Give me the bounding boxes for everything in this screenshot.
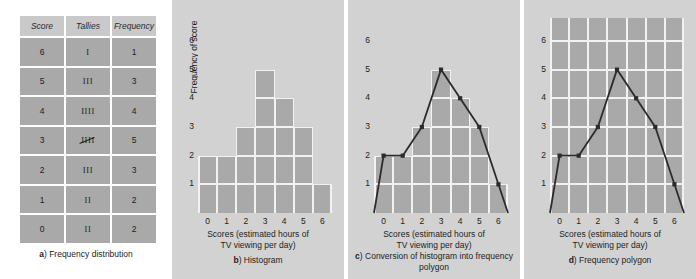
polygon-plot-area xyxy=(550,18,684,213)
y-axis-tick-label: 6 xyxy=(352,35,370,45)
cell-frequency: 1 xyxy=(112,38,156,66)
polygon-data-point-marker xyxy=(496,182,500,186)
x-axis-label: Scores (estimated hours of TV viewing pe… xyxy=(534,229,686,251)
cell-score: 5 xyxy=(20,68,64,96)
y-axis-tick-label: 4 xyxy=(352,92,370,102)
table-row: 5III3 xyxy=(20,68,156,96)
cell-tallies: III xyxy=(66,156,110,184)
histogram-bar-top-mask xyxy=(275,18,294,98)
cell-score: 1 xyxy=(20,186,64,214)
x-axis-tick-label: 1 xyxy=(394,216,412,226)
cell-tallies: II xyxy=(66,215,110,243)
panel-d-caption: d) Frequency polygon xyxy=(524,255,696,266)
table-header-row: Score Tallies Frequency xyxy=(20,16,156,36)
y-axis-tick-label: 5 xyxy=(352,64,370,74)
x-axis-label: Scores (estimated hours of TV viewing pe… xyxy=(358,229,510,251)
cell-score: 6 xyxy=(20,38,64,66)
x-axis-tick-label: 1 xyxy=(570,216,588,226)
x-axis-tick-label: 4 xyxy=(627,216,645,226)
panel-c-caption: c) Conversion of histogram into frequenc… xyxy=(348,251,520,273)
cell-tallies: IIII xyxy=(66,127,110,155)
cell-tallies: II xyxy=(66,186,110,214)
column-header-score: Score xyxy=(20,16,64,36)
polygon-data-point-marker xyxy=(615,68,619,72)
x-axis-tick-label: 4 xyxy=(275,216,293,226)
cell-tallies: III xyxy=(66,68,110,96)
cell-tallies: IIII xyxy=(66,97,110,125)
tally-bundle-five: IIII xyxy=(81,135,95,145)
polygon-data-point-marker xyxy=(420,125,424,129)
x-axis-label-line2: TV viewing per day) xyxy=(220,240,295,250)
y-axis-tick-label: 1 xyxy=(176,178,194,188)
x-axis-tick-label: 5 xyxy=(294,216,312,226)
x-axis-tick-label: 2 xyxy=(589,216,607,226)
x-axis-tick-label: 1 xyxy=(218,216,236,226)
panel-b-caption-label: Histogram xyxy=(244,255,283,265)
x-axis-tick-label: 3 xyxy=(608,216,626,226)
polygon-data-point-marker xyxy=(557,154,561,158)
x-axis-tick-label: 3 xyxy=(256,216,274,226)
panel-a-caption: a) Frequency distribution xyxy=(0,249,172,260)
cell-score: 0 xyxy=(20,215,64,243)
x-axis-tick-label: 0 xyxy=(551,216,569,226)
y-axis-tick-label: 2 xyxy=(176,150,194,160)
column-header-frequency: Frequency xyxy=(112,16,156,36)
frequency-distribution-table: Score Tallies Frequency 6I15III34IIII43I… xyxy=(18,14,158,245)
y-axis-tick-label: 1 xyxy=(352,178,370,188)
panel-c-conversion: 123456 0123456 Scores (estimated hours o… xyxy=(348,0,520,279)
x-axis-tick-label: 6 xyxy=(313,216,331,226)
tally-slash xyxy=(80,138,95,145)
panel-b-histogram: Frequency of score 123456 0123456 Scores… xyxy=(172,0,344,279)
x-axis-tick-label: 2 xyxy=(237,216,255,226)
x-axis-label-line1: Scores (estimated hours of xyxy=(383,229,485,239)
x-axis-label-line2: TV viewing per day) xyxy=(572,240,647,250)
table-row: 4IIII4 xyxy=(20,97,156,125)
polygon-data-point-marker xyxy=(672,182,676,186)
x-axis-label-line1: Scores (estimated hours of xyxy=(207,229,309,239)
frequency-polygon xyxy=(550,18,684,213)
polygon-data-point-marker xyxy=(577,154,581,158)
x-axis-label-line2: TV viewing per day) xyxy=(396,240,471,250)
histogram-bar-top-mask xyxy=(198,18,217,156)
panel-d-frequency-polygon: 123456 0123456 Scores (estimated hours o… xyxy=(524,0,696,279)
x-axis-tick-label: 2 xyxy=(413,216,431,226)
y-axis-tick-label: 1 xyxy=(528,178,546,188)
table-row: 3IIII5 xyxy=(20,127,156,155)
y-axis-tick-label: 6 xyxy=(528,35,546,45)
x-axis-tick-label: 6 xyxy=(665,216,683,226)
y-axis-tick-label: 6 xyxy=(176,35,194,45)
polygon-data-point-marker xyxy=(401,154,405,158)
y-axis-tick-label: 5 xyxy=(528,64,546,74)
polygon-line xyxy=(374,70,508,213)
cell-frequency: 5 xyxy=(112,127,156,155)
x-axis-tick-label: 6 xyxy=(489,216,507,226)
polygon-data-point-marker xyxy=(596,125,600,129)
table-row: 0II2 xyxy=(20,215,156,243)
x-axis-tick-label: 0 xyxy=(199,216,217,226)
histogram-bar-top-mask xyxy=(255,18,274,70)
table-row: 1II2 xyxy=(20,186,156,214)
conversion-plot-area xyxy=(374,18,508,213)
panel-a-caption-label: Frequency distribution xyxy=(49,249,133,259)
y-axis-tick-label: 3 xyxy=(352,121,370,131)
histogram-bar-top-mask xyxy=(217,18,236,156)
cell-score: 4 xyxy=(20,97,64,125)
cell-frequency: 3 xyxy=(112,156,156,184)
x-axis-tick-label: 4 xyxy=(451,216,469,226)
x-axis-tick-label: 3 xyxy=(432,216,450,226)
y-axis-tick-label: 5 xyxy=(176,64,194,74)
cell-frequency: 4 xyxy=(112,97,156,125)
histogram-bar-top-mask xyxy=(313,18,332,184)
polygon-data-point-marker xyxy=(439,68,443,72)
histogram-bar-top-mask xyxy=(294,18,313,127)
polygon-data-point-marker xyxy=(458,96,462,100)
panel-d-caption-label: Frequency polygon xyxy=(579,255,651,265)
y-axis-tick-label: 3 xyxy=(176,121,194,131)
cell-tallies: I xyxy=(66,38,110,66)
panel-b-caption: b) Histogram xyxy=(172,255,344,266)
cell-score: 2 xyxy=(20,156,64,184)
cell-frequency: 2 xyxy=(112,215,156,243)
y-axis-tick-label: 2 xyxy=(352,150,370,160)
histogram-plot-area xyxy=(198,18,332,213)
polygon-line xyxy=(550,70,684,213)
